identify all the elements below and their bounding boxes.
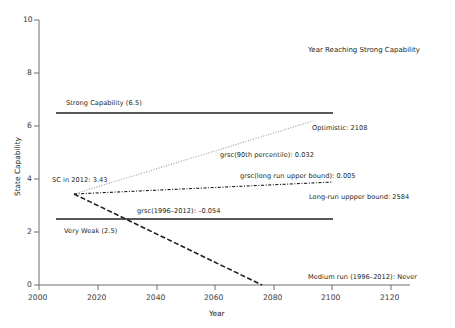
y-tick-label-8: 8 xyxy=(27,69,32,77)
y-tick-label-6: 6 xyxy=(27,122,32,130)
annotation-medium-run: Medium run (1996–2012): Never xyxy=(308,274,417,281)
x-tick-label-2080: 2080 xyxy=(263,294,282,302)
chart-figure: 10 8 6 4 2 0 2000 2020 2040 2060 2080 21… xyxy=(0,0,455,328)
x-tick-label-2120: 2120 xyxy=(380,294,399,302)
x-tick-label-2020: 2020 xyxy=(87,294,106,302)
y-tick-label-2: 2 xyxy=(27,228,32,236)
y-axis-ticks xyxy=(34,20,39,285)
series-long-run-upper-bound-line xyxy=(74,182,333,194)
chart-title: Year Reaching Strong Capability xyxy=(308,47,420,54)
y-tick-label-0: 0 xyxy=(27,281,32,289)
annotation-grsc-90th-percentile: grsc(90th percentile): 0.032 xyxy=(220,152,314,159)
x-tick-label-2040: 2040 xyxy=(146,294,165,302)
annotation-strong-capability: Strong Capability (6.5) xyxy=(66,100,142,107)
y-tick-label-10: 10 xyxy=(23,16,33,24)
annotation-long-run-upper-bound-year: Long-run uppper bound: 2584 xyxy=(309,194,409,201)
annotation-very-weak: Very Weak (2.5) xyxy=(64,228,117,235)
annotation-sc-2012: SC in 2012: 3.43 xyxy=(52,177,108,184)
x-axis-title: Year xyxy=(209,310,225,317)
annotation-grsc-historical: grsc(1996–2012): –0.054 xyxy=(137,208,221,215)
annotation-grsc-long-run-upper-bound: grsc(long run upper bound): 0.005 xyxy=(240,173,356,180)
x-tick-label-2100: 2100 xyxy=(321,294,340,302)
annotation-optimistic-year: Optimistic: 2108 xyxy=(312,125,367,132)
x-tick-label-2060: 2060 xyxy=(204,294,223,302)
x-tick-label-2000: 2000 xyxy=(28,294,47,302)
y-axis-title: State Capability xyxy=(14,137,21,196)
y-tick-label-4: 4 xyxy=(27,175,32,183)
x-axis-ticks xyxy=(39,285,391,290)
